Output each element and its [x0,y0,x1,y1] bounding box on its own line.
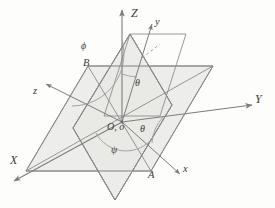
angle-label-theta-upper: θ [135,78,140,88]
point-label-origin: O, o [107,122,124,132]
axis-label-y: y [155,17,160,28]
euler-angle-figure: Z Y X z y x ϕ θ θ ψ O, o A B [0,0,275,208]
point-label-A: A [148,170,154,181]
axis-label-X: X [10,154,17,166]
axis-label-x: x [183,164,188,175]
dashed-construction-line [142,44,160,58]
angle-label-theta-lower: θ [140,124,145,134]
axis-label-z: z [33,86,37,97]
axis-label-Z: Z [131,7,138,19]
axis-label-Y: Y [255,93,262,105]
figure-canvas [0,0,275,208]
point-label-B: B [83,58,89,69]
angle-label-psi: ψ [111,145,117,155]
angle-label-phi: ϕ [81,41,86,51]
